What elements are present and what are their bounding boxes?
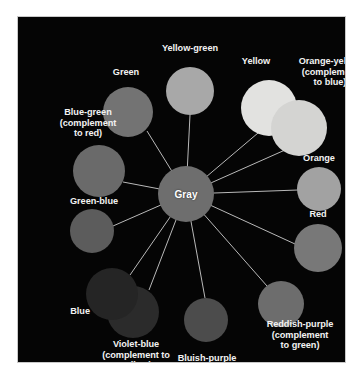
hub-label: Gray (174, 189, 197, 200)
color-node-blue[interactable] (86, 268, 138, 320)
color-node-yellow-green[interactable] (166, 67, 214, 115)
color-label-reddish-purple: Reddish-purple (complement to green) (251, 319, 346, 351)
color-node-orange[interactable] (297, 167, 341, 211)
color-label-orange: Orange (281, 153, 346, 164)
color-node-orange-yellow[interactable] (271, 100, 327, 156)
color-label-yellow: Yellow (225, 56, 287, 67)
color-node-green-blue[interactable] (70, 209, 114, 253)
hub-gray-circle[interactable]: Gray (158, 166, 214, 222)
color-label-violet-blue: Violet-blue (complement to yellow) (75, 339, 197, 363)
color-label-green: Green (92, 67, 160, 78)
color-node-blue-green[interactable] (73, 145, 125, 197)
color-label-red: Red (290, 209, 346, 220)
color-node-bluish-purple[interactable] (184, 298, 228, 342)
color-label-green-blue: Green-blue (48, 196, 140, 207)
color-label-blue-green: Blue-green (complement to red) (42, 107, 134, 139)
color-wheel-figure: Gray Yellow-greenYellowOrange-yellow (co… (0, 0, 360, 378)
color-node-red[interactable] (294, 224, 342, 272)
diagram-panel: Gray Yellow-greenYellowOrange-yellow (co… (17, 16, 346, 363)
color-label-yellow-green: Yellow-green (134, 43, 246, 54)
color-label-orange-yellow: Orange-yellow (complement to blue) (286, 56, 346, 88)
color-label-blue: Blue (52, 306, 90, 317)
